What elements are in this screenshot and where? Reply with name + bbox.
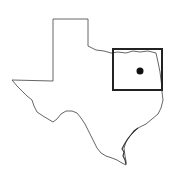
texas-outline bbox=[12, 19, 163, 165]
texas-map bbox=[0, 0, 178, 174]
location-marker bbox=[137, 68, 144, 75]
